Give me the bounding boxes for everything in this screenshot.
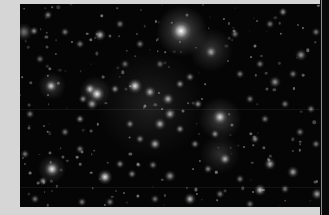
faint-star xyxy=(79,163,82,166)
faint-star xyxy=(91,64,92,65)
faint-star xyxy=(45,17,46,18)
faint-star xyxy=(91,153,92,154)
faint-star xyxy=(143,25,146,28)
faint-star xyxy=(27,46,30,49)
faint-star xyxy=(257,132,258,133)
faint-star xyxy=(299,149,301,151)
star xyxy=(111,85,120,94)
faint-star xyxy=(284,200,286,202)
faint-star xyxy=(45,45,48,48)
faint-star xyxy=(20,94,21,96)
star xyxy=(106,198,115,207)
faint-star xyxy=(67,107,68,108)
faint-star xyxy=(50,180,52,182)
faint-star xyxy=(251,162,254,165)
faint-star xyxy=(57,70,58,71)
faint-star xyxy=(212,54,213,55)
faint-star xyxy=(47,94,49,96)
faint-star xyxy=(55,40,57,42)
star xyxy=(266,20,275,29)
faint-star xyxy=(232,30,235,33)
faint-star xyxy=(302,74,305,77)
faint-star xyxy=(49,123,50,124)
faint-star xyxy=(300,111,303,114)
star xyxy=(162,93,174,105)
faint-star xyxy=(86,32,89,35)
faint-star xyxy=(38,154,40,156)
star xyxy=(256,60,265,69)
faint-star xyxy=(316,180,318,182)
faint-star xyxy=(223,18,225,20)
faint-star xyxy=(195,188,198,191)
star xyxy=(204,165,213,174)
star xyxy=(45,162,60,177)
faint-star xyxy=(156,39,158,41)
star xyxy=(84,83,96,95)
star xyxy=(76,145,85,154)
star xyxy=(194,100,203,109)
faint-star xyxy=(180,51,182,53)
faint-star xyxy=(253,135,256,138)
faint-star xyxy=(269,166,270,167)
star xyxy=(45,80,57,92)
star xyxy=(116,20,125,29)
faint-star xyxy=(46,130,49,133)
faint-star xyxy=(22,156,24,158)
faint-star xyxy=(302,27,304,29)
star xyxy=(94,29,106,41)
faint-star xyxy=(195,47,197,49)
faint-star xyxy=(192,168,194,170)
faint-star xyxy=(273,88,276,91)
star xyxy=(281,185,290,194)
faint-star xyxy=(306,49,309,52)
faint-star xyxy=(59,69,62,72)
faint-star xyxy=(263,146,266,149)
faint-star xyxy=(249,30,251,32)
faint-star xyxy=(111,195,114,198)
faint-star xyxy=(228,37,231,40)
star xyxy=(128,170,137,179)
faint-star xyxy=(127,202,128,203)
faint-star xyxy=(279,32,281,34)
faint-star xyxy=(134,55,136,57)
faint-star xyxy=(279,205,280,206)
star xyxy=(296,128,305,137)
faint-star xyxy=(173,112,174,113)
faint-star xyxy=(204,83,206,85)
faint-star xyxy=(137,163,140,166)
faint-star xyxy=(250,180,251,181)
faint-star xyxy=(40,29,42,31)
faint-star xyxy=(24,163,26,165)
faint-star xyxy=(62,155,65,158)
faint-star xyxy=(103,204,105,206)
faint-star xyxy=(215,171,217,173)
faint-star xyxy=(253,145,254,146)
star xyxy=(76,40,85,49)
faint-star xyxy=(262,189,264,191)
star xyxy=(136,40,145,49)
nebula-glow xyxy=(38,72,66,100)
faint-star xyxy=(51,87,52,88)
faint-star xyxy=(27,126,30,129)
faint-star xyxy=(89,89,91,91)
right-edge-line xyxy=(321,0,322,215)
faint-star xyxy=(231,123,234,126)
star xyxy=(36,55,45,64)
faint-star xyxy=(57,5,60,8)
faint-star xyxy=(43,181,45,183)
star xyxy=(31,195,40,204)
faint-star xyxy=(55,52,57,54)
faint-star xyxy=(256,103,258,105)
faint-star xyxy=(164,194,166,196)
faint-star xyxy=(96,33,98,35)
faint-star xyxy=(179,41,181,43)
faint-star xyxy=(43,126,45,128)
star xyxy=(30,27,39,36)
star xyxy=(295,49,307,61)
scanline-artifact xyxy=(20,187,329,188)
star xyxy=(21,150,30,159)
faint-star xyxy=(155,20,157,22)
star xyxy=(269,76,281,88)
faint-star xyxy=(129,85,131,87)
faint-star xyxy=(105,102,107,104)
